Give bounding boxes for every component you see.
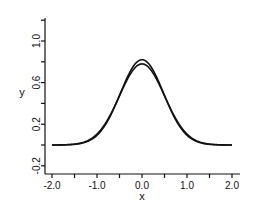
y-tick-label: 1.0 [31, 34, 42, 48]
y-tick-label: 0.6 [31, 75, 42, 89]
x-tick-label: -1.0 [88, 180, 106, 191]
x-tick-label: -2.0 [43, 180, 61, 191]
x-axis: -2.0-1.00.01.02.0 [43, 174, 240, 191]
x-tick-label: 1.0 [180, 180, 194, 191]
y-axis: -0.20.20.61.0 [31, 18, 46, 174]
series-line-2 [52, 64, 232, 145]
chart: -0.20.20.61.0 -2.0-1.00.01.02.0 y x [0, 0, 256, 220]
plot-area [52, 60, 232, 145]
y-axis-title: y [19, 86, 25, 98]
x-tick-label: 2.0 [225, 180, 239, 191]
x-axis-title: x [139, 190, 145, 202]
y-tick-label: 0.2 [31, 117, 42, 131]
y-tick-label: -0.2 [31, 157, 42, 175]
series-line-1 [52, 60, 232, 145]
